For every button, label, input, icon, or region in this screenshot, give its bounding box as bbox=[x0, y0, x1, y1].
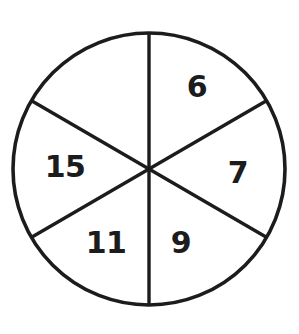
sector-label-left: 15 bbox=[45, 149, 86, 184]
sector-label-right: 7 bbox=[228, 155, 248, 190]
spinner-figure: 6 7 9 11 15 bbox=[0, 0, 299, 334]
sector-label-lower-right: 9 bbox=[171, 225, 191, 260]
sector-label-lower-left: 11 bbox=[86, 225, 127, 260]
sector-label-upper-right: 6 bbox=[187, 69, 207, 104]
spinner-wheel-graphic: 6 7 9 11 15 bbox=[0, 0, 299, 334]
